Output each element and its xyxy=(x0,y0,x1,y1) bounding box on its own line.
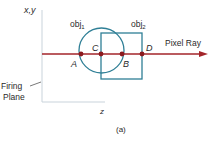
axis-label-xy: x,y xyxy=(23,5,36,15)
firing-plane-label-1: Firing xyxy=(1,81,23,91)
axis-label-z: z xyxy=(99,107,104,116)
point-a xyxy=(79,52,84,57)
label-d: D xyxy=(146,43,153,53)
obj2-label: obj2 xyxy=(131,19,146,30)
figure-caption: (a) xyxy=(116,125,126,134)
ray-arrowhead-icon xyxy=(199,51,208,57)
label-b: B xyxy=(123,59,129,69)
firing-plane-label-2: Plane xyxy=(3,92,25,102)
point-c xyxy=(99,52,104,57)
point-b xyxy=(120,52,125,57)
label-a: A xyxy=(70,59,77,69)
point-d xyxy=(140,52,145,57)
pixel-ray-label: Pixel Ray xyxy=(165,38,202,48)
firing-plane-pointer xyxy=(30,82,41,86)
label-c: C xyxy=(92,43,99,53)
ray-casting-diagram: x,y z Firing Plane obj1 obj2 Pixel Ray A… xyxy=(0,0,221,143)
obj1-label: obj1 xyxy=(70,19,85,30)
